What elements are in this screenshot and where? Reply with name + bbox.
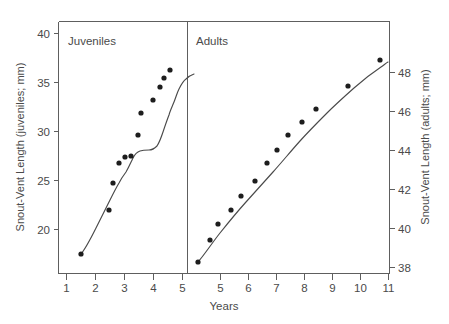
left-xtick-label-1: 1 xyxy=(63,282,69,294)
right-xtick-label-8: 8 xyxy=(301,282,307,294)
left-xtick-label-4: 4 xyxy=(150,282,157,294)
data-point xyxy=(274,147,279,152)
data-point xyxy=(116,160,121,165)
data-point xyxy=(195,259,200,264)
data-point xyxy=(150,97,155,102)
left-ytick-label-35: 35 xyxy=(37,77,50,89)
right-x-axis-ticks xyxy=(221,274,389,280)
right-ytick-label-46: 46 xyxy=(398,106,411,118)
right-ytick-label-38: 38 xyxy=(398,262,411,274)
left-xtick-label-2: 2 xyxy=(92,282,98,294)
data-point xyxy=(264,160,269,165)
figure-container: 40 35 30 25 20 48 46 44 42 40 38 xyxy=(0,0,449,324)
right-y-axis-labels: 48 46 44 42 40 38 xyxy=(398,67,411,274)
plot-frame xyxy=(59,22,390,274)
right-y-axis-ticks xyxy=(390,73,395,268)
right-ytick-label-44: 44 xyxy=(398,145,411,157)
adults-series xyxy=(195,57,388,264)
right-xtick-label-7: 7 xyxy=(273,282,279,294)
data-point xyxy=(157,84,162,89)
data-point xyxy=(345,83,350,88)
left-y-axis-labels: 40 35 30 25 20 xyxy=(37,28,50,236)
panel-label-juveniles: Juveniles xyxy=(68,35,116,47)
left-x-axis-labels: 1 2 3 4 5 xyxy=(63,282,185,294)
right-ytick-label-42: 42 xyxy=(398,184,411,196)
right-ytick-label-48: 48 xyxy=(398,67,411,79)
data-point xyxy=(252,178,257,183)
right-xtick-label-5: 5 xyxy=(217,282,223,294)
right-y-axis-title: Snout-Vent Length (adults; mm) xyxy=(419,69,431,224)
data-point xyxy=(128,153,133,158)
right-xtick-label-10: 10 xyxy=(354,282,367,294)
data-point xyxy=(122,154,127,159)
juveniles-series xyxy=(78,67,194,256)
right-ytick-label-40: 40 xyxy=(398,223,411,235)
data-point xyxy=(377,57,382,62)
left-xtick-label-5: 5 xyxy=(179,282,185,294)
panel-label-adults: Adults xyxy=(196,35,228,47)
data-point xyxy=(215,221,220,226)
left-y-axis-ticks xyxy=(54,34,59,230)
data-point xyxy=(110,180,115,185)
left-ytick-label-30: 30 xyxy=(37,126,50,138)
juveniles-fitted-curve xyxy=(81,74,194,254)
left-ytick-label-25: 25 xyxy=(37,175,50,187)
data-point xyxy=(228,207,233,212)
data-point xyxy=(78,251,83,256)
x-axis-title: Years xyxy=(210,300,239,312)
left-y-axis-title: Snout-Vent Length (juveniles; mm) xyxy=(14,63,26,232)
data-point xyxy=(299,119,304,124)
left-ytick-label-40: 40 xyxy=(37,28,50,40)
left-ytick-label-20: 20 xyxy=(37,224,50,236)
left-x-axis-ticks xyxy=(67,274,183,280)
data-point xyxy=(313,106,318,111)
right-xtick-label-6: 6 xyxy=(245,282,251,294)
data-point xyxy=(161,75,166,80)
adults-fitted-curve xyxy=(198,62,388,262)
chart-svg: 40 35 30 25 20 48 46 44 42 40 38 xyxy=(0,0,449,324)
data-point xyxy=(167,67,172,72)
data-point xyxy=(285,132,290,137)
data-point xyxy=(207,237,212,242)
data-point xyxy=(135,132,140,137)
right-xtick-label-9: 9 xyxy=(329,282,335,294)
data-point xyxy=(238,193,243,198)
left-xtick-label-3: 3 xyxy=(121,282,127,294)
right-xtick-label-11: 11 xyxy=(383,282,395,294)
right-x-axis-labels: 5 6 7 8 9 10 11 xyxy=(217,282,394,294)
data-point xyxy=(106,207,111,212)
data-point xyxy=(138,110,143,115)
